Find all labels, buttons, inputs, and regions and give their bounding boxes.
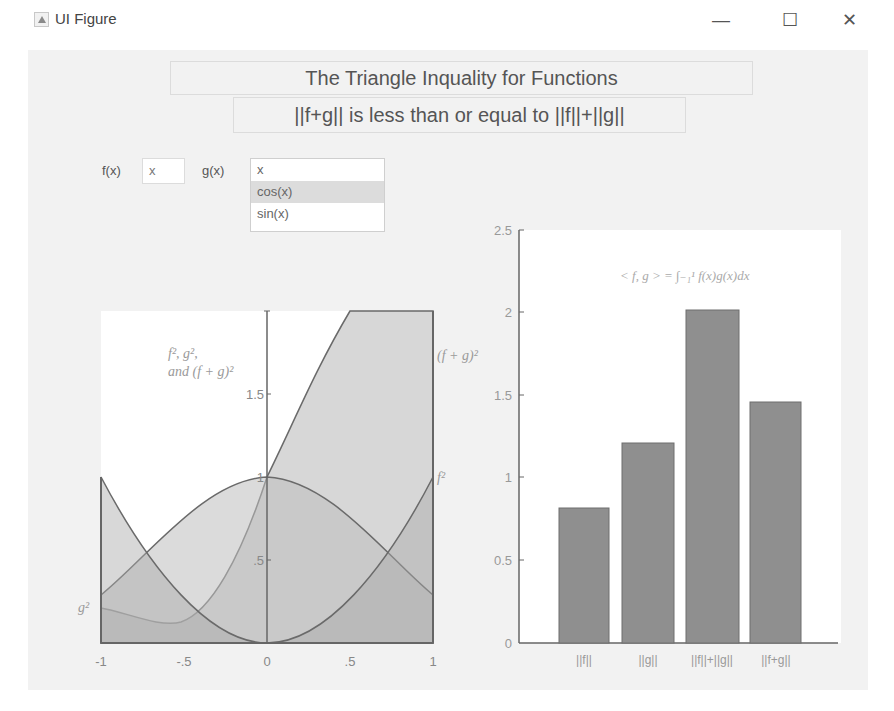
bar-norm-f-plus-g [750,402,801,643]
bar-x-tick: ||f||+||g|| [691,653,733,667]
bar-y-tick: 0 [505,636,512,651]
bar-y-tick: 2.5 [494,223,512,238]
bar-y-tick: 1 [505,470,512,485]
bar-y-tick: 2 [505,305,512,320]
bar-norm-f [559,508,609,643]
bar-x-tick: ||g|| [638,653,657,667]
bar-norm-g [622,443,674,643]
bar-x-tick: ||f|| [576,653,592,667]
bar-x-tick: ||f+g|| [761,653,790,667]
right-plot: 0 0.5 1 1.5 2 2.5 ||f|| ||g|| ||f||+||g|… [0,0,894,711]
bar-y-tick: 0.5 [494,553,512,568]
inner-product-annotation: < f, g > = ∫₋₁¹ f(x)g(x)dx [620,268,750,284]
bar-norm-sum [686,310,739,643]
bar-y-tick: 1.5 [494,388,512,403]
